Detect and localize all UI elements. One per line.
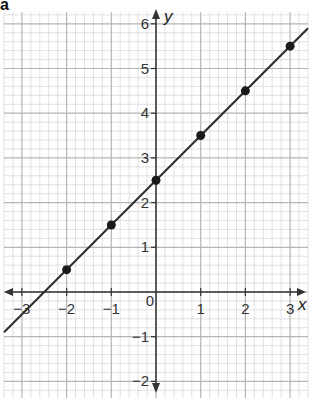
- data-point: [196, 131, 205, 140]
- x-axis-left-arrow-icon: [4, 288, 13, 296]
- axes: [4, 9, 306, 393]
- y-tick-label: −2: [132, 372, 149, 389]
- y-tick-label: 6: [141, 15, 149, 32]
- y-tick-label: 4: [141, 104, 149, 121]
- x-tick-label: −2: [58, 300, 75, 317]
- y-tick-label: 2: [141, 194, 149, 211]
- y-tick-label: 1: [141, 238, 149, 255]
- x-tick-label: 0: [146, 292, 154, 309]
- y-tick-label: −1: [132, 328, 149, 345]
- x-tick-label: 1: [197, 300, 205, 317]
- data-point: [62, 265, 71, 274]
- data-point: [107, 220, 116, 229]
- x-tick-label: −1: [103, 300, 120, 317]
- line-graph: xy−3−2−10123−2−1123456: [0, 0, 310, 402]
- y-axis-up-arrow-icon: [152, 9, 160, 19]
- data-point: [152, 176, 161, 185]
- x-axis-label: x: [297, 295, 307, 314]
- x-tick-label: 3: [286, 300, 294, 317]
- data-point: [286, 42, 295, 51]
- y-tick-label: 3: [141, 149, 149, 166]
- x-tick-label: 2: [241, 300, 249, 317]
- y-axis-down-arrow-icon: [152, 383, 160, 393]
- y-tick-label: 5: [141, 60, 149, 77]
- y-axis-label: y: [163, 7, 174, 26]
- data-point: [241, 86, 250, 95]
